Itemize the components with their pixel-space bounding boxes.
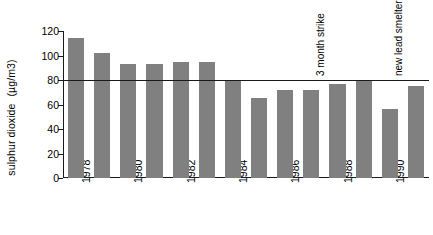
bar: [120, 64, 136, 178]
bar: [356, 81, 372, 178]
bar-series: [63, 31, 429, 178]
bar: [382, 109, 398, 178]
bar: [68, 38, 84, 178]
annotation-label: new lead smelter trials: [393, 0, 404, 77]
bar: [277, 90, 293, 178]
y-axis-tick-label: 60: [19, 99, 59, 111]
bar: [251, 98, 267, 178]
y-axis-unit-text: (µg/m3): [5, 59, 17, 96]
y-axis-tick-label: 20: [19, 148, 59, 160]
bar: [94, 53, 110, 178]
bar: [303, 90, 319, 178]
y-axis-tick-label: 40: [19, 123, 59, 135]
plot-area: [63, 31, 429, 178]
annotation-label: 3 month strike: [315, 12, 326, 77]
reference-line: [63, 80, 429, 81]
y-axis-tick-label: 0: [19, 172, 59, 184]
bar: [225, 80, 241, 178]
y-axis-label-text: sulphur dioxide: [5, 103, 17, 175]
chart-screenshot: sulphur dioxide (µg/m3) 020406080100120 …: [0, 0, 433, 235]
y-axis-tick-label: 100: [19, 50, 59, 62]
y-axis-tick-label: 80: [19, 74, 59, 86]
bar: [408, 86, 424, 178]
y-axis-tick-label: 120: [19, 25, 59, 37]
bar: [146, 64, 162, 178]
bar: [329, 84, 345, 178]
